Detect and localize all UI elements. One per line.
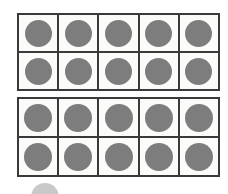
counter-icon [105, 58, 132, 85]
frame-cell[interactable] [57, 15, 97, 51]
frame-cell[interactable] [97, 15, 137, 51]
frame-cell[interactable] [178, 99, 218, 136]
ten-frame-figure [0, 0, 228, 194]
frame-cell[interactable] [19, 138, 57, 175]
frame-cell[interactable] [57, 99, 97, 136]
counter-icon [105, 104, 133, 132]
counter-icon [185, 20, 212, 47]
frame-cell[interactable] [19, 53, 57, 89]
frame-cell[interactable] [178, 15, 218, 51]
counter-icon [64, 104, 92, 132]
frame-cell[interactable] [138, 99, 178, 136]
frame-row [19, 51, 218, 89]
counter-icon [145, 143, 173, 171]
frame-cell[interactable] [57, 138, 97, 175]
counter-icon [145, 20, 172, 47]
frame-row [19, 99, 218, 136]
counter-icon [185, 104, 213, 132]
counter-icon [24, 104, 52, 132]
counter-icon [25, 58, 52, 85]
counter-icon [65, 58, 92, 85]
frame-cell[interactable] [138, 138, 178, 175]
frame-row [19, 15, 218, 51]
counter-icon [65, 20, 92, 47]
counter-icon [24, 143, 52, 171]
frame-cell[interactable] [178, 138, 218, 175]
partial-counter-icon [31, 183, 59, 194]
counter-icon [25, 20, 52, 47]
frame-cell[interactable] [178, 53, 218, 89]
counter-icon [105, 20, 132, 47]
counter-icon [145, 58, 172, 85]
frame-cell[interactable] [97, 99, 137, 136]
counter-icon [185, 58, 212, 85]
frame-cell[interactable] [138, 15, 178, 51]
counter-icon [64, 143, 92, 171]
frame-cell[interactable] [97, 53, 137, 89]
ten-frame-2 [17, 97, 220, 177]
frame-cell[interactable] [57, 53, 97, 89]
counter-icon [105, 143, 133, 171]
frame-cell[interactable] [138, 53, 178, 89]
frame-cell[interactable] [97, 138, 137, 175]
counter-icon [185, 143, 213, 171]
ten-frame-1 [17, 13, 220, 91]
counter-icon [145, 104, 173, 132]
frame-cell[interactable] [19, 15, 57, 51]
frame-row [19, 136, 218, 175]
frame-cell[interactable] [19, 99, 57, 136]
